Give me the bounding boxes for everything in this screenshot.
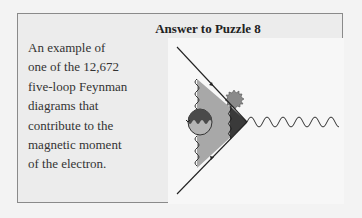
external-photon-wave	[247, 117, 339, 127]
caption-line: one of the 12,672	[28, 57, 148, 76]
caption-text: An example of one of the 12,672 five-loo…	[28, 38, 148, 174]
feynman-diagram	[168, 38, 344, 204]
puzzle-answer-panel: Answer to Puzzle 8 An example of one of …	[17, 13, 343, 203]
dark-vertex-region	[230, 106, 247, 139]
caption-line: five-loop Feynman	[28, 77, 148, 96]
panel-title: Answer to Puzzle 8	[18, 21, 342, 37]
feynman-diagram-graphic	[168, 38, 344, 204]
caption-line: magnetic moment	[28, 135, 148, 154]
caption-line: diagrams that	[28, 96, 148, 115]
caption-line: contribute to the	[28, 116, 148, 135]
caption-line: An example of	[28, 38, 148, 57]
caption-line: of the electron.	[28, 154, 148, 173]
